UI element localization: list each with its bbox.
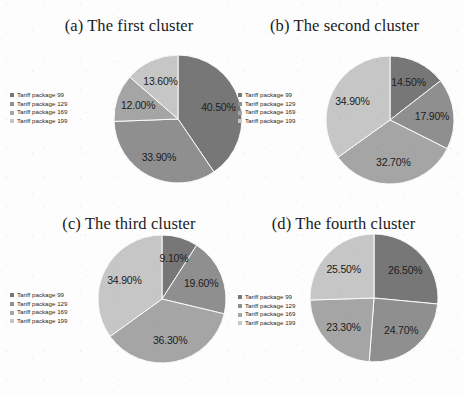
- panel-third-cluster: (c) The third cluster Tariff package 99 …: [0, 198, 232, 396]
- legend-swatch-tariff-199: [238, 321, 242, 325]
- legend-item-tariff-129: Tariff package 129: [10, 301, 67, 307]
- pie-slice-label: 25.50%: [326, 263, 360, 275]
- legend-item-tariff-199: Tariff package 199: [238, 320, 295, 326]
- legend-item-tariff-199: Tariff package 199: [10, 118, 67, 124]
- legend-label-tariff-169: Tariff package 169: [245, 311, 295, 317]
- legend-c: Tariff package 99 Tariff package 129 Tar…: [10, 292, 67, 324]
- legend-item-tariff-99: Tariff package 99: [238, 92, 295, 98]
- pie-slice-label: 9.10%: [160, 252, 189, 264]
- legend-label-tariff-169: Tariff package 169: [245, 109, 295, 115]
- panel-title-c: (c) The third cluster: [0, 214, 232, 234]
- pie-chart-d: 26.50%24.70%23.30%25.50%: [310, 234, 438, 362]
- legend-swatch-tariff-99: [10, 93, 14, 97]
- legend-item-tariff-99: Tariff package 99: [238, 294, 295, 300]
- pie-slice-label: 32.70%: [376, 156, 410, 168]
- legend-b: Tariff package 99 Tariff package 129 Tar…: [238, 92, 295, 124]
- legend-label-tariff-129: Tariff package 129: [245, 101, 295, 107]
- pie-slice-label: 23.30%: [326, 321, 360, 333]
- legend-item-tariff-169: Tariff package 169: [238, 311, 295, 317]
- legend-label-tariff-169: Tariff package 169: [17, 109, 67, 115]
- legend-item-tariff-129: Tariff package 129: [238, 303, 295, 309]
- pie-slice-label: 34.90%: [335, 95, 369, 107]
- legend-swatch-tariff-199: [10, 119, 14, 123]
- pie-slice-label: 12.00%: [121, 99, 155, 111]
- panel-title-d: (d) The fourth cluster: [232, 214, 463, 234]
- pie-wrap-d: 26.50%24.70%23.30%25.50%: [310, 234, 438, 362]
- panel-fourth-cluster: (d) The fourth cluster Tariff package 99…: [232, 198, 463, 396]
- legend-item-tariff-199: Tariff package 199: [10, 318, 67, 324]
- pie-slice-label: 24.70%: [384, 324, 418, 336]
- legend-swatch-tariff-199: [10, 319, 14, 323]
- legend-item-tariff-99: Tariff package 99: [10, 292, 67, 298]
- legend-label-tariff-99: Tariff package 99: [17, 292, 64, 298]
- legend-swatch-tariff-169: [238, 313, 242, 317]
- legend-swatch-tariff-129: [10, 102, 14, 106]
- pie-slice-label: 40.50%: [201, 101, 235, 113]
- pie-slice-label: 36.30%: [153, 334, 187, 346]
- pie-chart-b: 14.50%17.90%32.70%34.90%: [326, 56, 454, 184]
- pie-chart-a: 40.50%33.90%12.00%13.60%: [114, 55, 242, 183]
- legend-swatch-tariff-99: [238, 295, 242, 299]
- panel-title-b: (b) The second cluster: [232, 16, 463, 36]
- legend-item-tariff-99: Tariff package 99: [10, 92, 67, 98]
- legend-label-tariff-129: Tariff package 129: [17, 301, 67, 307]
- pie-chart-c: 9.10%19.60%36.30%34.90%: [98, 235, 226, 363]
- legend-d: Tariff package 99 Tariff package 129 Tar…: [238, 294, 295, 326]
- legend-swatch-tariff-169: [10, 311, 14, 315]
- legend-item-tariff-129: Tariff package 129: [10, 101, 67, 107]
- legend-label-tariff-199: Tariff package 199: [245, 118, 295, 124]
- legend-item-tariff-169: Tariff package 169: [10, 309, 67, 315]
- legend-label-tariff-199: Tariff package 199: [245, 320, 295, 326]
- legend-swatch-tariff-99: [238, 93, 242, 97]
- legend-swatch-tariff-129: [10, 302, 14, 306]
- legend-swatch-tariff-169: [10, 111, 14, 115]
- pie-slice-label: 19.60%: [184, 277, 218, 289]
- legend-swatch-tariff-129: [238, 102, 242, 106]
- legend-swatch-tariff-99: [10, 293, 14, 297]
- legend-label-tariff-99: Tariff package 99: [245, 294, 292, 300]
- pie-slice-label: 26.50%: [388, 264, 422, 276]
- pie-slice-label: 13.60%: [143, 75, 177, 87]
- legend-label-tariff-99: Tariff package 99: [245, 92, 292, 98]
- panel-second-cluster: (b) The second cluster Tariff package 99…: [232, 0, 463, 198]
- pie-slice-label: 33.90%: [142, 151, 176, 163]
- panel-first-cluster: (a) The first cluster Tariff package 99 …: [0, 0, 232, 198]
- pie-wrap-a: 40.50%33.90%12.00%13.60%: [114, 55, 242, 183]
- legend-item-tariff-129: Tariff package 129: [238, 101, 295, 107]
- legend-item-tariff-169: Tariff package 169: [10, 109, 67, 115]
- legend-label-tariff-169: Tariff package 169: [17, 309, 67, 315]
- pie-slice-label: 14.50%: [391, 76, 425, 88]
- legend-label-tariff-199: Tariff package 199: [17, 118, 67, 124]
- panel-title-a: (a) The first cluster: [0, 16, 232, 36]
- pie-wrap-b: 14.50%17.90%32.70%34.90%: [326, 56, 454, 184]
- legend-item-tariff-169: Tariff package 169: [238, 109, 295, 115]
- legend-item-tariff-199: Tariff package 199: [238, 118, 295, 124]
- legend-label-tariff-199: Tariff package 199: [17, 318, 67, 324]
- legend-label-tariff-129: Tariff package 129: [245, 303, 295, 309]
- legend-a: Tariff package 99 Tariff package 129 Tar…: [10, 92, 67, 124]
- pie-slice-label: 34.90%: [107, 274, 141, 286]
- pie-wrap-c: 9.10%19.60%36.30%34.90%: [98, 235, 226, 363]
- legend-label-tariff-99: Tariff package 99: [17, 92, 64, 98]
- pie-slice-label: 17.90%: [415, 110, 449, 122]
- legend-swatch-tariff-199: [238, 119, 242, 123]
- pie-chart-figure-grid: (a) The first cluster Tariff package 99 …: [0, 0, 463, 396]
- legend-swatch-tariff-129: [238, 304, 242, 308]
- legend-label-tariff-129: Tariff package 129: [17, 101, 67, 107]
- legend-swatch-tariff-169: [238, 111, 242, 115]
